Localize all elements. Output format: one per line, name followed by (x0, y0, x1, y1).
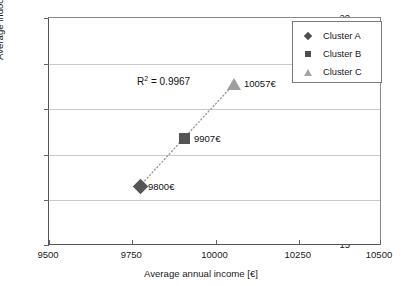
legend-label-cluster-b: Cluster B (323, 49, 361, 59)
y-tick-mark-17 (44, 155, 49, 156)
x-tick-mark-10500 (380, 240, 381, 244)
data-label-cluster-a: 9800€ (148, 181, 174, 192)
x-tick-label-9500: 9500 (25, 250, 71, 260)
data-label-cluster-c: 10057€ (244, 78, 276, 89)
data-point-cluster-a[interactable] (132, 178, 148, 194)
y-axis-title: Average indoor air temperature [ºC] (0, 0, 5, 60)
x-axis-title: Average annual income [€] (0, 268, 402, 279)
triangle-marker-icon (300, 69, 316, 76)
x-tick-mark-9750 (132, 240, 133, 244)
gridline-17 (49, 155, 380, 156)
y-tick-mark-15 (44, 245, 49, 246)
legend: Cluster A Cluster B Cluster C (292, 21, 382, 83)
legend-item-cluster-a[interactable]: Cluster A (293, 27, 381, 45)
gridline-16 (49, 200, 380, 201)
r-squared-annotation: R2 = 0.9967 (137, 75, 190, 87)
diamond-marker-icon (300, 33, 316, 39)
x-tick-mark-10000 (216, 240, 217, 244)
data-label-cluster-b: 9907€ (194, 133, 220, 144)
legend-item-cluster-b[interactable]: Cluster B (293, 45, 381, 63)
x-tick-label-10000: 10000 (192, 250, 238, 260)
x-tick-label-9750: 9750 (108, 250, 154, 260)
x-tick-mark-10250 (299, 240, 300, 244)
chart-canvas: 20 19 18 17 16 15 Average indoor air tem… (0, 0, 402, 286)
square-marker-icon (300, 51, 316, 57)
legend-label-cluster-a: Cluster A (323, 31, 361, 41)
x-tick-mark-9500 (49, 240, 50, 244)
y-tick-mark-16 (44, 200, 49, 201)
data-point-cluster-b[interactable] (179, 133, 190, 144)
x-tick-label-10500: 10500 (356, 250, 402, 260)
legend-item-cluster-c[interactable]: Cluster C (293, 63, 381, 81)
gridline-18 (49, 109, 380, 110)
r-value: = 0.9967 (148, 76, 190, 87)
y-tick-mark-20 (44, 18, 49, 19)
legend-label-cluster-c: Cluster C (323, 67, 362, 77)
y-tick-mark-19 (44, 64, 49, 65)
y-tick-mark-18 (44, 109, 49, 110)
x-tick-label-10250: 10250 (275, 250, 321, 260)
data-point-cluster-c[interactable] (227, 78, 241, 90)
